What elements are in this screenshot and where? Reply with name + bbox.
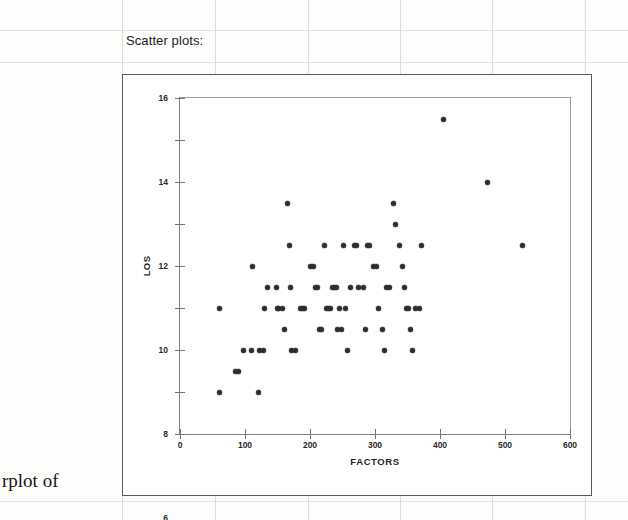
scatter-point bbox=[256, 390, 261, 395]
scatter-point bbox=[334, 285, 339, 290]
x-axis-tick bbox=[375, 429, 376, 439]
x-axis-tick-label: 200 bbox=[303, 440, 317, 450]
scatter-point bbox=[417, 306, 422, 311]
x-axis-label: FACTORS bbox=[350, 456, 399, 467]
y-axis-tick-label: 8 bbox=[163, 429, 168, 439]
figure-frame: LOS FACTORS 0246810121416010020030040050… bbox=[122, 74, 592, 496]
scatter-point bbox=[361, 285, 366, 290]
y-axis-tick-label: 16 bbox=[159, 93, 168, 103]
scatter-point bbox=[410, 348, 415, 353]
scatter-point bbox=[274, 285, 279, 290]
scatter-point bbox=[288, 285, 293, 290]
scatter-point bbox=[382, 348, 387, 353]
scatter-point bbox=[380, 327, 385, 332]
x-axis-tick bbox=[180, 429, 181, 439]
x-axis-tick-label: 600 bbox=[563, 440, 577, 450]
scatter-point bbox=[406, 306, 411, 311]
scatter-point bbox=[419, 243, 424, 248]
scatter-point bbox=[408, 327, 413, 332]
y-axis-tick: 4 bbox=[175, 350, 185, 351]
scatter-point bbox=[354, 243, 359, 248]
scatter-point bbox=[376, 306, 381, 311]
scatter-point bbox=[302, 306, 307, 311]
scatter-point bbox=[282, 327, 287, 332]
scatter-point bbox=[441, 117, 446, 122]
x-axis-tick-label: 0 bbox=[178, 440, 183, 450]
x-axis-tick bbox=[505, 429, 506, 439]
x-axis-tick-label: 300 bbox=[368, 440, 382, 450]
scatter-point bbox=[261, 348, 266, 353]
y-axis-tick: 10 bbox=[175, 224, 185, 225]
y-axis-tick: 2 bbox=[175, 392, 185, 393]
scatter-point bbox=[397, 243, 402, 248]
y-axis-tick-label: 14 bbox=[159, 177, 168, 187]
x-axis-tick bbox=[245, 429, 246, 439]
scatter-point bbox=[262, 306, 267, 311]
scatter-point bbox=[241, 348, 246, 353]
figure-caption: Scatter plots: bbox=[126, 33, 203, 48]
scatter-point bbox=[520, 243, 525, 248]
plot-area: LOS FACTORS 0246810121416010020030040050… bbox=[179, 97, 571, 435]
scatter-point bbox=[363, 327, 368, 332]
y-axis-tick-label: 6 bbox=[163, 513, 168, 520]
scatter-point bbox=[249, 348, 254, 353]
scatter-point bbox=[341, 243, 346, 248]
scatter-point bbox=[328, 306, 333, 311]
scatter-point bbox=[315, 285, 320, 290]
x-axis-tick-label: 500 bbox=[498, 440, 512, 450]
scatter-point bbox=[387, 285, 392, 290]
scatter-point bbox=[287, 243, 292, 248]
y-axis-label: LOS bbox=[141, 256, 152, 277]
x-axis-tick-label: 400 bbox=[433, 440, 447, 450]
x-axis-tick-label: 100 bbox=[238, 440, 252, 450]
y-axis-tick: 6 bbox=[175, 308, 185, 309]
scatter-point bbox=[293, 348, 298, 353]
y-axis-tick-label: 10 bbox=[159, 345, 168, 355]
scatter-point bbox=[250, 264, 255, 269]
scatter-point bbox=[402, 285, 407, 290]
y-axis-tick-label: 12 bbox=[159, 261, 168, 271]
scatter-point bbox=[374, 264, 379, 269]
x-axis-tick bbox=[440, 429, 441, 439]
scatter-point bbox=[345, 348, 350, 353]
scatter-point bbox=[343, 306, 348, 311]
y-axis-tick: 14 bbox=[175, 140, 185, 141]
scatter-point bbox=[319, 327, 324, 332]
scatter-point bbox=[367, 243, 372, 248]
scatter-point bbox=[217, 306, 222, 311]
x-axis-tick bbox=[570, 429, 571, 439]
y-axis-tick: 16 bbox=[175, 98, 185, 99]
scatter-point bbox=[236, 369, 241, 374]
scatter-point bbox=[391, 201, 396, 206]
y-axis-tick: 8 bbox=[175, 266, 185, 267]
scatter-point bbox=[311, 264, 316, 269]
scatter-point bbox=[280, 306, 285, 311]
scatter-points-layer bbox=[180, 98, 570, 434]
scatter-point bbox=[393, 222, 398, 227]
scatter-point bbox=[265, 285, 270, 290]
scatter-point bbox=[285, 201, 290, 206]
body-text-fragment: rplot of bbox=[2, 470, 58, 492]
scatter-point bbox=[348, 285, 353, 290]
scatter-point bbox=[337, 306, 342, 311]
scatter-point bbox=[322, 243, 327, 248]
scatter-point bbox=[400, 264, 405, 269]
scatter-point bbox=[485, 180, 490, 185]
scatter-point bbox=[339, 327, 344, 332]
scatter-point bbox=[324, 306, 329, 311]
x-axis-tick bbox=[310, 429, 311, 439]
scatter-point bbox=[217, 390, 222, 395]
y-axis-tick: 12 bbox=[175, 182, 185, 183]
